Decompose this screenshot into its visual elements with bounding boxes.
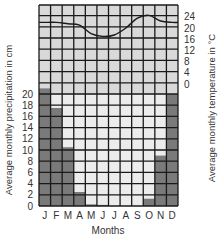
y2-tick-label: 0 bbox=[184, 79, 190, 90]
x-tick-label: O bbox=[145, 210, 153, 221]
precipitation-bar bbox=[74, 192, 86, 206]
x-tick-label: F bbox=[53, 210, 59, 221]
y2-tick-label: 16 bbox=[184, 34, 196, 45]
y-tick-label: 16 bbox=[22, 111, 34, 122]
x-tick-label: D bbox=[169, 210, 176, 221]
x-tick-label: S bbox=[134, 210, 141, 221]
y2-axis-title: Average monthly temperature in °C bbox=[206, 34, 217, 182]
y2-tick-label: 4 bbox=[184, 67, 190, 78]
y-tick-label: 10 bbox=[22, 145, 34, 156]
y2-tick-label: 8 bbox=[184, 56, 190, 67]
y2-tick-label: 20 bbox=[184, 23, 196, 34]
y-tick-label: 18 bbox=[22, 100, 34, 111]
y-tick-label: 2 bbox=[27, 189, 33, 200]
precipitation-bar bbox=[51, 108, 63, 206]
y2-tick-label: 12 bbox=[184, 45, 196, 56]
y-tick-label: 14 bbox=[22, 122, 34, 133]
precipitation-bar bbox=[39, 88, 51, 206]
precipitation-bar bbox=[143, 199, 155, 206]
x-tick-label: J bbox=[42, 210, 47, 221]
x-axis-tick-labels: JFMAMJJASOND bbox=[42, 210, 176, 221]
x-tick-label: J bbox=[112, 210, 117, 221]
x-tick-label: A bbox=[76, 210, 83, 221]
y-tick-label: 0 bbox=[27, 201, 33, 212]
x-tick-label: A bbox=[123, 210, 130, 221]
precipitation-bar bbox=[155, 156, 167, 206]
y-axis-tick-labels: 02468101214161820 bbox=[22, 89, 34, 212]
precipitation-bar bbox=[62, 147, 74, 206]
y-axis-title: Average monthly precipitation in cm bbox=[3, 45, 14, 195]
y2-axis-tick-labels: 04812162024 bbox=[184, 11, 196, 89]
x-tick-label: N bbox=[157, 210, 164, 221]
x-tick-label: J bbox=[100, 210, 105, 221]
y-tick-label: 12 bbox=[22, 133, 34, 144]
climate-chart: 02468101214161820 04812162024 JFMAMJJASO… bbox=[0, 0, 224, 240]
x-tick-label: M bbox=[64, 210, 72, 221]
y-tick-label: 4 bbox=[27, 178, 33, 189]
y-tick-label: 6 bbox=[27, 167, 33, 178]
y-tick-label: 20 bbox=[22, 89, 34, 100]
y2-tick-label: 24 bbox=[184, 11, 196, 22]
x-tick-label: M bbox=[87, 210, 95, 221]
x-axis-title: Months bbox=[92, 225, 125, 236]
y-tick-label: 8 bbox=[27, 156, 33, 167]
